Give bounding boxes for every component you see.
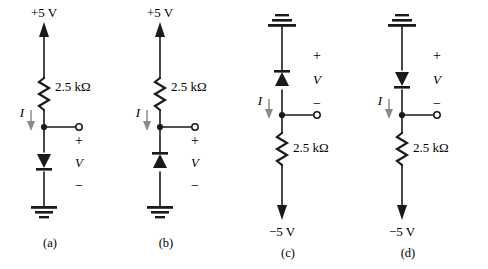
ground-symbol [268, 14, 296, 27]
voltage-label: V [75, 155, 85, 170]
diode-cathode-bar [394, 86, 410, 89]
resistor-label: 2.5 kΩ [413, 140, 449, 155]
circuit-diagram-b: +5 V 2.5 kΩ I + V − (b) [116, 0, 238, 269]
circuit-diagram-a: +5 V 2.5 kΩ I + V − (a) [0, 0, 122, 269]
diode-triangle-up [275, 72, 289, 86]
ground-symbol [147, 206, 173, 218]
supply-label: +5 V [147, 5, 174, 20]
terminal-plus-sign: + [75, 133, 83, 148]
resistor-symbol [277, 133, 287, 165]
terminal-plus-sign: + [313, 48, 321, 63]
current-label: I [257, 93, 263, 108]
terminal-minus-sign: − [433, 96, 441, 111]
output-terminal [76, 124, 82, 130]
supply-label: +5 V [31, 5, 58, 20]
diode-triangle-down [395, 72, 409, 86]
resistor-symbol [39, 78, 49, 110]
caption-b: (b) [159, 236, 174, 250]
ground-symbol [388, 14, 416, 27]
caption-d: (d) [401, 246, 416, 260]
output-terminal [434, 112, 440, 118]
circuit-diagram-c: + V − I 2.5 kΩ −5 V (c) [238, 0, 360, 269]
voltage-label: V [191, 155, 201, 170]
node-dot [399, 112, 405, 118]
resistor-label: 2.5 kΩ [293, 140, 329, 155]
ground-symbol [31, 206, 57, 218]
node-dot [157, 124, 163, 130]
resistor-symbol [397, 133, 407, 165]
current-arrow-head [27, 121, 35, 131]
terminal-plus-sign: + [433, 48, 441, 63]
supply-arrow-up [39, 22, 49, 37]
current-label: I [135, 105, 141, 120]
current-arrow-head [143, 121, 151, 131]
resistor-label: 2.5 kΩ [171, 79, 207, 94]
resistor-label: 2.5 kΩ [55, 79, 91, 94]
terminal-minus-sign: − [313, 96, 321, 111]
node-dot [41, 124, 47, 130]
output-terminal [192, 124, 198, 130]
supply-arrow-down [277, 205, 287, 220]
supply-label: −5 V [269, 224, 296, 239]
resistor-symbol [155, 78, 165, 110]
current-arrow-head [265, 109, 273, 119]
current-label: I [377, 93, 383, 108]
node-dot [279, 112, 285, 118]
supply-arrow-down [397, 205, 407, 220]
supply-arrow-up [155, 22, 165, 37]
terminal-minus-sign: − [191, 178, 199, 193]
voltage-label: V [313, 72, 323, 87]
caption-a: (a) [43, 236, 57, 250]
diode-cathode-bar [36, 168, 52, 171]
circuit-diagram-d: + V − I 2.5 kΩ −5 V (d) [358, 0, 480, 269]
diode-triangle-down [37, 154, 51, 168]
circuit-figure: +5 V 2.5 kΩ I + V − (a) [0, 0, 488, 269]
supply-label: −5 V [389, 224, 416, 239]
terminal-plus-sign: + [191, 133, 199, 148]
current-label: I [19, 105, 25, 120]
caption-c: (c) [281, 246, 295, 260]
current-arrow-head [385, 109, 393, 119]
output-terminal [314, 112, 320, 118]
terminal-minus-sign: − [75, 178, 83, 193]
voltage-label: V [433, 72, 443, 87]
diode-triangle-up [153, 154, 167, 168]
